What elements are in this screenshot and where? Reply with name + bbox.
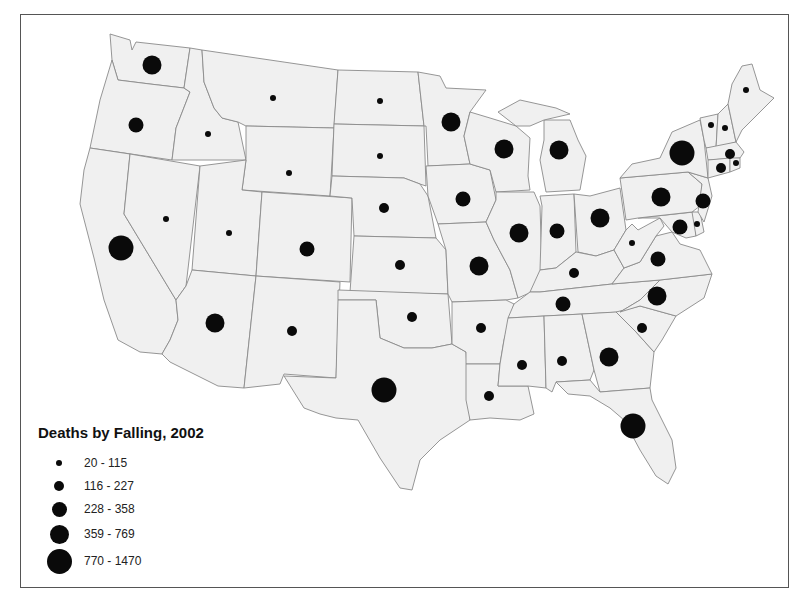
symbol-wa: [143, 56, 162, 75]
symbol-al: [557, 356, 567, 366]
symbol-ar: [476, 323, 486, 333]
symbol-de: [694, 221, 700, 227]
symbol-ks: [395, 260, 405, 270]
legend-circle-icon: [54, 481, 64, 491]
legend-circle-icon: [50, 525, 69, 544]
symbol-id: [205, 131, 211, 137]
legend-label: 359 - 769: [84, 527, 135, 541]
state-co: [256, 192, 352, 282]
state-nd: [334, 70, 424, 126]
symbol-ma: [725, 149, 735, 159]
symbol-wy: [286, 170, 292, 176]
legend-label: 770 - 1470: [84, 554, 141, 568]
symbol-nc: [648, 287, 667, 306]
state-ny: [620, 120, 708, 178]
symbol-ok: [407, 312, 417, 322]
symbol-nj: [696, 194, 711, 209]
state-me: [728, 64, 774, 142]
legend-circle-icon: [47, 549, 72, 574]
symbol-fl: [621, 414, 646, 439]
state-wy: [242, 126, 334, 196]
symbol-mn: [442, 113, 461, 132]
symbol-ut: [226, 230, 232, 236]
symbol-mo: [470, 257, 489, 276]
legend-label: 20 - 115: [84, 456, 127, 470]
symbol-tn: [556, 297, 571, 312]
symbol-ca: [109, 236, 134, 261]
legend-label: 116 - 227: [84, 479, 134, 493]
symbol-ri: [733, 160, 739, 166]
legend-item-4: 359 - 769: [38, 521, 135, 547]
symbol-ga: [600, 348, 619, 367]
legend-circle-icon: [52, 502, 67, 517]
state-outlines: [80, 34, 774, 490]
symbol-ny: [670, 141, 695, 166]
symbol-il: [510, 224, 529, 243]
symbol-nh: [722, 125, 728, 131]
symbol-pa: [652, 188, 671, 207]
symbol-ne: [379, 203, 389, 213]
symbol-ms: [517, 360, 527, 370]
symbol-sc: [637, 323, 647, 333]
symbol-in: [550, 224, 565, 239]
symbol-tx: [372, 378, 397, 403]
symbol-ky: [569, 268, 579, 278]
symbol-sd: [377, 153, 383, 159]
symbol-vt: [708, 122, 714, 128]
symbol-la: [484, 391, 494, 401]
symbol-nv: [163, 216, 169, 222]
legend: Deaths by Falling, 2002 20 - 115 116 - 2…: [38, 424, 204, 441]
legend-title: Deaths by Falling, 2002: [38, 424, 204, 441]
symbol-mi: [550, 141, 569, 160]
symbol-wi: [495, 140, 514, 159]
symbol-me: [743, 87, 749, 93]
legend-item-5: 770 - 1470: [38, 548, 141, 574]
legend-item-3: 228 - 358: [38, 496, 135, 522]
symbol-nd: [377, 98, 383, 104]
symbol-az: [206, 314, 225, 333]
symbol-wv: [629, 240, 635, 246]
symbol-md: [673, 220, 688, 235]
symbol-co: [300, 242, 315, 257]
state-mt: [202, 50, 338, 128]
legend-label: 228 - 358: [84, 502, 135, 516]
symbol-ia: [456, 192, 471, 207]
state-fl: [556, 380, 676, 484]
symbol-ct: [716, 163, 726, 173]
symbol-nm: [287, 326, 297, 336]
symbol-oh: [591, 209, 610, 228]
legend-circle-icon: [56, 460, 62, 466]
symbol-or: [129, 118, 144, 133]
symbol-mt: [270, 95, 276, 101]
symbol-va: [651, 252, 666, 267]
